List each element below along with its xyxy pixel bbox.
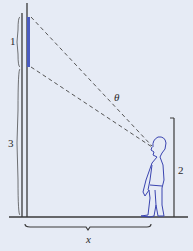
sight-line-top bbox=[31, 17, 152, 146]
label-distance: x bbox=[85, 233, 91, 245]
label-angle: θ bbox=[114, 91, 120, 103]
brace-3 bbox=[17, 69, 20, 215]
label-board-height: 1 bbox=[10, 35, 16, 47]
label-board-bottom: 3 bbox=[8, 137, 14, 149]
diagram-canvas: 1 3 2 x θ bbox=[0, 0, 193, 251]
person-figure bbox=[141, 137, 166, 217]
board bbox=[27, 17, 30, 67]
brace-1 bbox=[17, 17, 20, 67]
label-eye-height: 2 bbox=[178, 164, 184, 176]
sight-line-bottom bbox=[31, 67, 152, 147]
distance-brace bbox=[25, 224, 151, 230]
